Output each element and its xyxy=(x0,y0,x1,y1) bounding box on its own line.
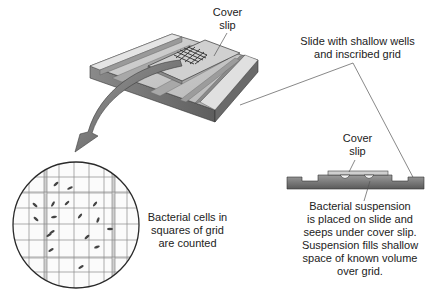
label-slide-description: Slide with shallow wells and inscribed g… xyxy=(290,35,425,61)
cross-section-cover-slip xyxy=(328,171,388,175)
magnified-grid-view xyxy=(0,150,160,299)
label-cover-slip-top: Cover slip xyxy=(205,6,250,32)
leader-cover-slip-section xyxy=(349,160,355,172)
cross-section-slide xyxy=(287,175,424,189)
label-cells-counted: Bacterial cells in squares of grid are c… xyxy=(140,211,235,250)
label-suspension-description: Bacterial suspension is placed on slide … xyxy=(290,200,430,278)
diagram-canvas: Cover slip Slide with shallow wells and … xyxy=(0,0,435,299)
slide-3d xyxy=(90,34,258,122)
label-cover-slip-section: Cover slip xyxy=(335,132,380,158)
leader-slide-description xyxy=(240,63,415,181)
slide-cross-section xyxy=(287,171,424,189)
